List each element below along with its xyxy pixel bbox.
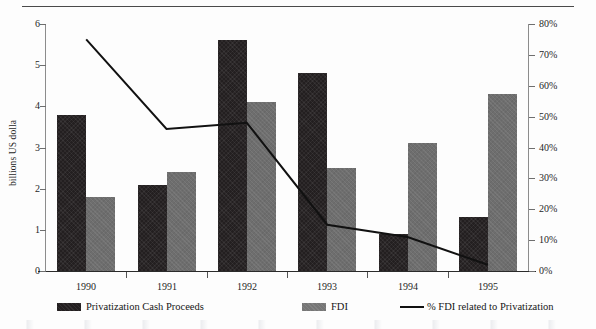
bar-privatization-cash-proceeds-1992 <box>218 40 247 271</box>
legend-item-percent-fdi[interactable]: % FDI related to Privatization <box>400 300 554 314</box>
chart-figure: 0123456 0%10%20%30%40%50%60%70%80% billi… <box>0 0 596 329</box>
bar-privatization-cash-proceeds-1994 <box>379 234 408 271</box>
right-axis-tick-label: 20% <box>539 204 579 214</box>
left-axis-tick <box>40 271 46 272</box>
left-axis-tick-label: 2 <box>20 184 40 194</box>
left-axis-tick-label: 1 <box>20 225 40 235</box>
right-axis-tick <box>529 271 535 272</box>
right-axis-tick-label: 0% <box>539 266 579 276</box>
right-axis-tick <box>529 55 535 56</box>
right-axis-tick <box>529 178 535 179</box>
legend-line-black-icon <box>400 306 424 308</box>
x-axis-label-1993: 1993 <box>287 281 367 292</box>
x-axis-label-1990: 1990 <box>46 281 126 292</box>
right-axis-tick-label: 50% <box>539 112 579 122</box>
legend-label: % FDI related to Privatization <box>427 301 554 313</box>
bar-privatization-cash-proceeds-1993 <box>298 73 327 271</box>
legend-swatch-light-icon <box>302 303 326 311</box>
legend-item-fdi[interactable]: FDI <box>302 300 348 314</box>
right-axis-tick-label: 10% <box>539 235 579 245</box>
y-axis-label: billions US dolla <box>8 88 18 218</box>
scan-artifact-band <box>0 320 596 329</box>
x-axis-tick <box>207 272 208 278</box>
left-axis-tick-label: 3 <box>20 143 40 153</box>
bar-privatization-cash-proceeds-1991 <box>138 185 167 271</box>
right-axis-tick <box>529 117 535 118</box>
x-axis-label-1991: 1991 <box>127 281 207 292</box>
right-axis-tick <box>529 209 535 210</box>
x-axis-label-1992: 1992 <box>207 281 287 292</box>
left-axis-tick-label: 0 <box>20 266 40 276</box>
bar-fdi-1990 <box>86 197 115 271</box>
x-axis-label-1995: 1995 <box>448 281 528 292</box>
legend-swatch-dark-icon <box>57 303 81 311</box>
bar-fdi-1991 <box>167 172 196 271</box>
right-axis-tick-label: 30% <box>539 173 579 183</box>
right-axis-tick-label: 70% <box>539 50 579 60</box>
right-axis-tick <box>529 148 535 149</box>
left-axis-tick-label: 5 <box>20 60 40 70</box>
plot-area <box>46 24 528 271</box>
x-axis-tick <box>126 272 127 278</box>
bar-privatization-cash-proceeds-1995 <box>459 217 488 271</box>
bar-privatization-cash-proceeds-1990 <box>57 115 86 271</box>
right-axis-tick-label: 80% <box>539 19 579 29</box>
bars-layer <box>46 24 528 271</box>
x-axis-tick <box>448 272 449 278</box>
right-axis-tick <box>529 24 535 25</box>
left-axis-tick-label: 4 <box>20 101 40 111</box>
x-axis-tick <box>287 272 288 278</box>
x-axis-label-1994: 1994 <box>368 281 448 292</box>
bar-fdi-1993 <box>327 168 356 271</box>
right-axis-tick <box>529 240 535 241</box>
legend-item-privatization-cash-proceeds[interactable]: Privatization Cash Proceeds <box>57 300 204 314</box>
x-axis-tick <box>367 272 368 278</box>
chart-legend: Privatization Cash ProceedsFDI% FDI rela… <box>0 300 596 316</box>
top-divider-rule <box>22 6 574 7</box>
right-axis-tick-label: 40% <box>539 143 579 153</box>
legend-label: FDI <box>331 301 348 313</box>
bar-fdi-1994 <box>408 143 437 271</box>
left-axis-tick-label: 6 <box>20 19 40 29</box>
bar-fdi-1992 <box>247 102 276 271</box>
right-axis-tick <box>529 86 535 87</box>
bar-fdi-1995 <box>488 94 517 271</box>
legend-label: Privatization Cash Proceeds <box>86 301 204 313</box>
right-axis-tick-label: 60% <box>539 81 579 91</box>
